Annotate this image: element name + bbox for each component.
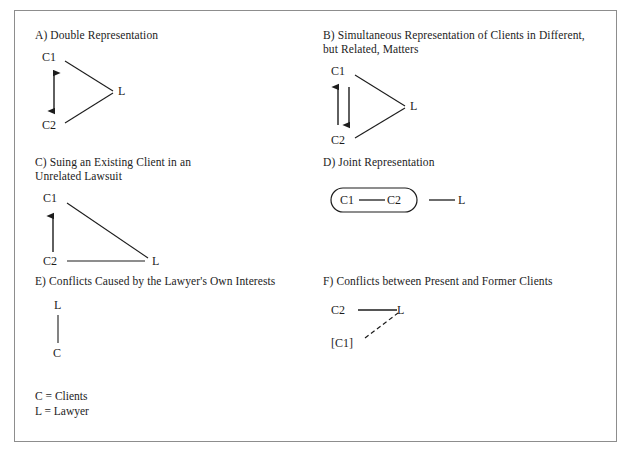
panel-d-node-c1: C1	[340, 194, 354, 206]
panel-a-diagram: C1 C2 L	[35, 51, 185, 141]
legend: C = Clients L = Lawyer	[35, 389, 89, 419]
panel-c-edge-c1-l	[67, 203, 148, 258]
figure-frame: A) Double Representation C1	[14, 10, 617, 442]
panel-e-svg	[35, 297, 115, 365]
panel-f-node-c2: C2	[331, 304, 345, 316]
panel-e-node-c: C	[53, 347, 61, 359]
panel-e-diagram: L C	[35, 297, 115, 365]
panel-b: B) Simultaneous Representation of Client…	[323, 29, 613, 56]
panel-d-heading: D) Joint Representation	[323, 156, 613, 170]
panel-f-diagram: C2 L [C1]	[323, 297, 503, 363]
panel-c: C) Suing an Existing Client in an Unrela…	[35, 156, 305, 183]
panel-b-node-c2: C2	[331, 134, 345, 146]
panel-f-node-former-c1: [C1]	[331, 337, 353, 349]
panel-d-diagram: C1 C2 L	[323, 184, 503, 218]
panel-a: A) Double Representation C1	[35, 29, 305, 43]
panel-e-node-l: L	[54, 299, 61, 311]
panel-a-svg	[35, 51, 185, 141]
panel-a-node-c2: C2	[42, 119, 56, 131]
panel-b-edge-c2-l	[355, 108, 405, 138]
panel-d-node-l: L	[458, 194, 465, 206]
panel-d-node-c2: C2	[387, 194, 401, 206]
panel-f-edge-c1-l-dashed	[365, 313, 398, 338]
panel-c-node-l: L	[152, 255, 159, 267]
panel-f-svg	[323, 297, 503, 363]
panel-e-heading: E) Conflicts Caused by the Lawyer's Own …	[35, 275, 315, 289]
panel-c-svg	[35, 192, 195, 277]
panel-a-node-c1: C1	[42, 51, 56, 63]
panel-a-edge-c2-l	[65, 93, 113, 123]
panel-c-diagram: C1 C2 L	[35, 192, 195, 277]
panel-b-diagram: C1 C2 L	[323, 65, 483, 155]
panel-b-svg	[323, 65, 483, 155]
panel-b-node-l: L	[410, 100, 417, 112]
legend-line-clients: C = Clients	[35, 389, 89, 404]
panel-c-node-c2: C2	[43, 255, 57, 267]
panel-b-node-c1: C1	[331, 65, 345, 77]
panel-c-heading: C) Suing an Existing Client in an Unrela…	[35, 156, 305, 183]
panel-a-heading: A) Double Representation	[35, 29, 305, 43]
panel-f-heading: F) Conflicts between Present and Former …	[323, 275, 613, 289]
panel-f-node-l: L	[397, 304, 404, 316]
panel-f: F) Conflicts between Present and Former …	[323, 275, 613, 289]
panel-b-heading: B) Simultaneous Representation of Client…	[323, 29, 613, 56]
panel-d: D) Joint Representation C1 C2 L	[323, 156, 613, 170]
panel-b-edge-c1-l	[355, 75, 405, 106]
panel-e: E) Conflicts Caused by the Lawyer's Own …	[35, 275, 315, 289]
panel-a-edge-c1-l	[65, 61, 113, 91]
panel-c-node-c1: C1	[43, 192, 57, 204]
panel-a-node-l: L	[118, 85, 125, 97]
legend-line-lawyer: L = Lawyer	[35, 404, 89, 419]
